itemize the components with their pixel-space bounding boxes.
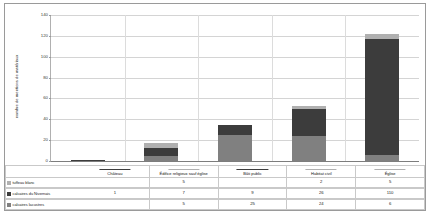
bar-segment[interactable]: [218, 125, 252, 134]
table-header-row: ChâteauÉdifice religieux sauf égliseBâti…: [5, 165, 425, 177]
table-cell: [81, 177, 150, 188]
stacked-bar[interactable]: [218, 125, 252, 161]
y-axis-tick-label: 120: [41, 34, 48, 38]
legend-swatch: [7, 181, 11, 185]
table-cell: 7: [150, 188, 219, 199]
y-axis-tick-label: 80: [43, 75, 48, 79]
table-cell: 2: [287, 177, 356, 188]
y-axis-tick-label: 40: [43, 117, 48, 121]
stacked-bar[interactable]: [365, 34, 399, 161]
y-axis-title: nombre de mentions de matériaux: [10, 24, 24, 149]
table-row: calcaires du Nivernais17926110: [5, 188, 425, 199]
table-cell: 1: [81, 188, 150, 199]
stacked-bar[interactable]: [144, 143, 178, 161]
data-table: ChâteauÉdifice religieux sauf égliseBâti…: [5, 165, 425, 210]
bar-segment[interactable]: [365, 155, 399, 161]
table-cell: 25: [219, 199, 288, 210]
legend-label: tuffeau blanc: [13, 181, 35, 185]
legend-cell[interactable]: calcaires du Nivernais: [5, 188, 81, 199]
table-cell: 5: [356, 177, 425, 188]
category-header-cell: Château: [81, 165, 150, 177]
category-header-label: Église: [385, 171, 396, 176]
stacked-bar[interactable]: [292, 106, 326, 161]
table-cell: 5: [150, 177, 219, 188]
category-header-cell: Bâti public: [219, 165, 288, 177]
category-header-label: Bâti public: [243, 171, 261, 176]
chart-plot-region: nombre de mentions de matériaux 14012010…: [5, 4, 425, 167]
bar-segment[interactable]: [365, 39, 399, 155]
bar-segment[interactable]: [218, 135, 252, 161]
y-axis-title-text: nombre de mentions de matériaux: [15, 55, 20, 119]
category-header-label: Habitat civil: [311, 171, 331, 176]
legend-cell[interactable]: calcaires lacustres: [5, 199, 81, 210]
legend-label: calcaires du Nivernais: [13, 192, 51, 196]
table-cell: 24: [287, 199, 356, 210]
category-header-cells: ChâteauÉdifice religieux sauf égliseBâti…: [81, 165, 425, 177]
header-color-bar: [168, 169, 199, 171]
legend-swatch: [7, 192, 11, 196]
legend-label: calcaires lacustres: [13, 203, 45, 207]
table-row: tuffeau blanc525: [5, 177, 425, 188]
chart-frame: nombre de mentions de matériaux 14012010…: [4, 3, 426, 211]
bar-segment[interactable]: [292, 109, 326, 136]
category-header-label: Château: [107, 171, 122, 176]
bar-segment[interactable]: [144, 156, 178, 161]
table-cell: 110: [356, 188, 425, 199]
y-axis-tick-label: 140: [41, 13, 48, 17]
table-cell: 6: [356, 199, 425, 210]
category-header-cell: Édifice religieux sauf église: [150, 165, 219, 177]
stacked-bar[interactable]: [71, 160, 105, 161]
legend-cell[interactable]: tuffeau blanc: [5, 177, 81, 188]
y-axis-tick-label: 20: [43, 138, 48, 142]
legend-swatch: [7, 203, 11, 207]
bar-slot: [345, 15, 419, 161]
plot-area: 140120100806040200: [50, 15, 419, 162]
table-cell: [81, 199, 150, 210]
bar-slot: [51, 15, 125, 161]
bar-slot: [272, 15, 346, 161]
header-color-bar: [99, 169, 130, 171]
category-header-cell: Église: [356, 165, 425, 177]
y-axis-tick-label: 60: [43, 96, 48, 100]
y-axis-tick-label: 100: [41, 55, 48, 59]
bar-series-container: [51, 15, 419, 161]
table-cell: 5: [150, 199, 219, 210]
table-cell: 9: [219, 188, 288, 199]
table-cell: 26: [287, 188, 356, 199]
legend-header-cell: [5, 165, 81, 177]
bar-segment[interactable]: [144, 148, 178, 155]
bar-segment[interactable]: [71, 160, 105, 161]
category-header-label: Édifice religieux sauf église: [160, 171, 208, 176]
table-data-rows: tuffeau blanc525calcaires du Nivernais17…: [5, 177, 425, 210]
bar-slot: [198, 15, 272, 161]
bar-segment[interactable]: [292, 136, 326, 161]
table-row: calcaires lacustres525246: [5, 199, 425, 210]
y-axis-tick-label: 0: [46, 159, 48, 163]
header-color-bar: [237, 169, 268, 171]
bar-slot: [125, 15, 199, 161]
header-color-bar: [374, 169, 405, 171]
header-color-bar: [306, 169, 337, 171]
table-cell: [219, 177, 288, 188]
category-header-cell: Habitat civil: [287, 165, 356, 177]
y-axis-tick-mark: [49, 161, 51, 162]
